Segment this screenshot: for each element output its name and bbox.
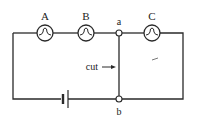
node-label-b: b bbox=[117, 106, 122, 117]
wire-left bbox=[13, 33, 61, 99]
cut-label: cut bbox=[86, 61, 98, 72]
node-b bbox=[116, 96, 122, 102]
bulb-c bbox=[144, 25, 160, 41]
node-label-a: a bbox=[117, 16, 122, 27]
bulb-icon bbox=[37, 25, 53, 41]
stray-mark bbox=[152, 58, 158, 60]
bulb-label-a: A bbox=[41, 10, 49, 22]
bulb-icon bbox=[144, 25, 160, 41]
node-a bbox=[116, 30, 122, 36]
bulb-label-c: C bbox=[148, 10, 155, 22]
wire-right bbox=[122, 33, 183, 99]
bulb-a bbox=[37, 25, 53, 41]
bulb-label-b: B bbox=[82, 10, 89, 22]
bulb-b bbox=[78, 25, 94, 41]
arrow-right-icon bbox=[102, 65, 116, 69]
circuit-diagram: A B C a b cut bbox=[0, 0, 197, 125]
battery-icon bbox=[63, 90, 68, 108]
bulb-icon bbox=[78, 25, 94, 41]
